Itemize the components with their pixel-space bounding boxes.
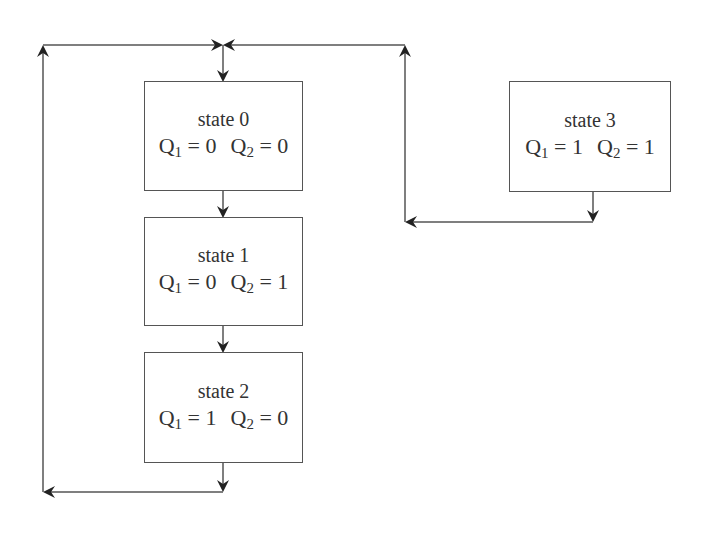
state-box-1: state 1 Q1 = 0Q2 = 1 <box>144 217 303 326</box>
state-equation: Q1 = 1Q2 = 0 <box>159 404 289 438</box>
state-title: state 2 <box>198 378 250 404</box>
state-box-3: state 3 Q1 = 1Q2 = 1 <box>509 81 671 192</box>
state-equation: Q1 = 0Q2 = 1 <box>159 268 289 302</box>
state-title: state 3 <box>564 107 616 133</box>
state-title: state 1 <box>198 242 250 268</box>
state-equation: Q1 = 1Q2 = 1 <box>525 133 655 167</box>
state-title: state 0 <box>198 106 250 132</box>
state-box-2: state 2 Q1 = 1Q2 = 0 <box>144 352 303 463</box>
connector-lines <box>0 0 710 533</box>
state-box-0: state 0 Q1 = 0Q2 = 0 <box>144 81 303 191</box>
state-equation: Q1 = 0Q2 = 0 <box>159 132 289 166</box>
